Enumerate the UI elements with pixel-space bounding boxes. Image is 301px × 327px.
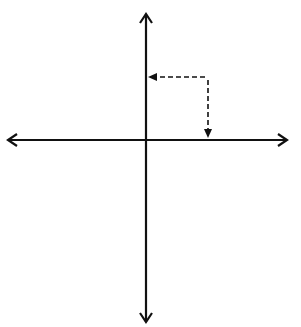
y-coordinate-arrow-icon <box>148 73 157 81</box>
coordinate-plane <box>0 0 301 327</box>
x-coordinate-arrow-icon <box>204 129 212 138</box>
